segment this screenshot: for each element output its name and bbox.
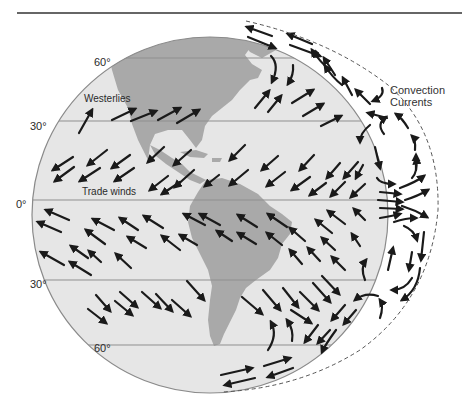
westerlies-label: Westerlies bbox=[84, 93, 131, 104]
latitude-label-30n: 30° bbox=[30, 120, 47, 132]
latitude-label-equator: 0° bbox=[16, 198, 27, 210]
trade-winds-label: Trade winds bbox=[82, 186, 136, 197]
convection-currents-label-line2: Currents bbox=[390, 96, 433, 108]
wind-pattern-diagram: 60° 30° 0° 30° 60° Westerlies Trade wind… bbox=[0, 0, 462, 407]
latitude-label-30s: 30° bbox=[30, 278, 47, 290]
latitude-label-60n: 60° bbox=[94, 56, 111, 68]
latitude-label-60s: 60° bbox=[94, 342, 111, 354]
